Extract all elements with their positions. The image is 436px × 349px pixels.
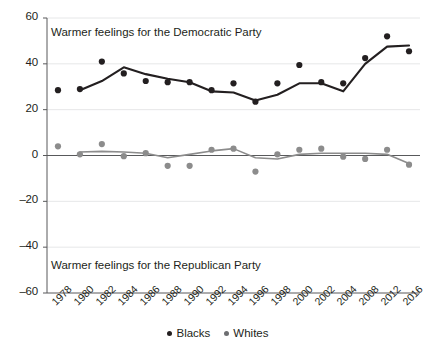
data-point-blacks	[384, 33, 390, 39]
data-point-whites	[296, 147, 302, 153]
legend-item: Blacks	[167, 327, 210, 339]
trend-line-blacks	[80, 46, 409, 101]
data-point-whites	[252, 168, 258, 174]
data-point-blacks	[208, 87, 214, 93]
data-point-blacks	[77, 86, 83, 92]
data-point-whites	[77, 151, 83, 157]
data-point-whites	[318, 146, 324, 152]
data-point-whites	[230, 146, 236, 152]
chart-legend: BlacksWhites	[0, 327, 436, 339]
data-point-blacks	[121, 70, 127, 76]
data-point-blacks	[318, 79, 324, 85]
data-point-blacks	[230, 80, 236, 86]
data-point-blacks	[252, 99, 258, 105]
data-point-blacks	[99, 58, 105, 64]
legend-dot-icon	[167, 331, 172, 336]
annotation-republican-party: Warmer feelings for the Republican Party	[51, 259, 261, 271]
data-point-whites	[143, 150, 149, 156]
data-point-blacks	[274, 80, 280, 86]
chart-container: 6040200–20–40–60 19781980198219841986198…	[0, 0, 436, 349]
legend-item: Whites	[224, 327, 268, 339]
data-point-whites	[165, 163, 171, 169]
legend-dot-icon	[224, 331, 229, 336]
data-point-whites	[99, 141, 105, 147]
annotation-democratic-party: Warmer feelings for the Democratic Party	[51, 26, 261, 38]
legend-label: Blacks	[176, 327, 210, 339]
trend-line-whites	[80, 149, 409, 164]
data-point-blacks	[340, 80, 346, 86]
y-axis-tick-label: 60	[12, 10, 38, 22]
y-axis-tick-label: –20	[12, 193, 38, 205]
data-point-whites	[340, 154, 346, 160]
y-axis-tick-label: –60	[12, 285, 38, 297]
data-point-blacks	[143, 78, 149, 84]
data-point-whites	[121, 153, 127, 159]
data-point-blacks	[165, 79, 171, 85]
data-point-whites	[208, 147, 214, 153]
data-point-blacks	[55, 87, 61, 93]
data-point-blacks	[406, 48, 412, 54]
data-point-blacks	[362, 55, 368, 61]
y-axis-tick-label: 0	[12, 148, 38, 160]
data-point-blacks	[296, 62, 302, 68]
y-axis-tick-label: 40	[12, 56, 38, 68]
data-point-whites	[384, 147, 390, 153]
y-axis-tick-label: –40	[12, 239, 38, 251]
data-point-whites	[362, 156, 368, 162]
legend-label: Whites	[233, 327, 268, 339]
data-point-whites	[55, 143, 61, 149]
data-point-whites	[274, 151, 280, 157]
data-point-whites	[406, 162, 412, 168]
data-point-whites	[187, 163, 193, 169]
data-point-blacks	[187, 79, 193, 85]
y-axis-tick-label: 20	[12, 102, 38, 114]
